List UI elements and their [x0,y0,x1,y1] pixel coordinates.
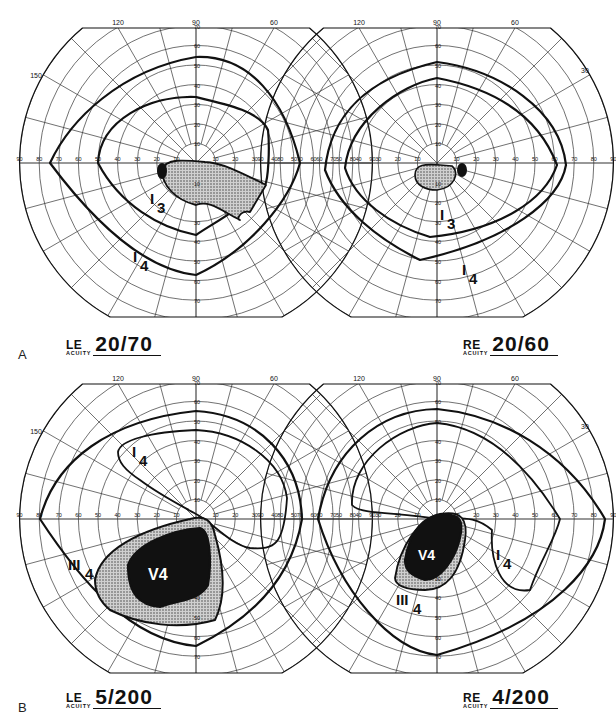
svg-text:120: 120 [112,375,124,382]
svg-text:20: 20 [194,122,200,128]
panel-a-re-acuity: REACUITY 20/60 [463,333,558,356]
svg-text:80: 80 [277,512,283,518]
svg-text:20: 20 [154,512,160,518]
svg-text:50: 50 [95,512,101,518]
svg-text:I: I [440,206,444,223]
svg-text:40: 40 [435,239,441,245]
acuity-value: 20/70 [93,333,161,356]
svg-text:70: 70 [435,380,441,386]
svg-text:4: 4 [469,270,478,287]
svg-text:3: 3 [447,215,455,232]
svg-text:90: 90 [610,512,616,518]
svg-text:20: 20 [232,512,238,518]
svg-text:10: 10 [414,512,420,518]
panel-b-le-acuity: LEACUITY 5/200 [66,686,161,709]
svg-text:60: 60 [75,512,81,518]
svg-text:10: 10 [435,497,441,503]
svg-text:30: 30 [194,458,200,464]
svg-text:30: 30 [435,458,441,464]
acuity-value: 4/200 [490,686,558,709]
svg-text:60: 60 [435,635,441,641]
svg-text:30: 30 [375,156,381,162]
svg-text:V4: V4 [418,547,435,563]
svg-text:40: 40 [194,239,200,245]
svg-text:30: 30 [134,156,140,162]
svg-text:40: 40 [512,156,518,162]
svg-text:4: 4 [413,600,422,617]
svg-text:20: 20 [473,512,479,518]
svg-text:40: 40 [115,512,121,518]
svg-text:40: 40 [194,83,200,89]
svg-text:60: 60 [270,19,278,26]
svg-text:40: 40 [194,595,200,601]
svg-text:40: 40 [435,439,441,445]
svg-text:80: 80 [36,156,42,162]
svg-text:30: 30 [493,512,499,518]
svg-text:30: 30 [581,67,589,74]
svg-text:20: 20 [435,556,441,562]
svg-text:10: 10 [435,181,441,187]
svg-text:60: 60 [435,399,441,405]
acuity-label: ACUITY [463,351,488,357]
svg-text:10: 10 [454,156,460,162]
acuity-label: ACUITY [463,704,488,710]
svg-text:20: 20 [194,478,200,484]
panel-b-re-acuity: REACUITY 4/200 [463,686,558,709]
svg-text:60: 60 [316,156,322,162]
svg-text:90: 90 [610,156,616,162]
svg-text:10: 10 [213,156,219,162]
svg-text:10: 10 [194,141,200,147]
svg-text:4: 4 [140,257,149,274]
svg-text:III: III [396,591,409,608]
svg-text:20: 20 [395,512,401,518]
svg-text:20: 20 [435,478,441,484]
svg-text:120: 120 [112,19,124,26]
svg-text:III: III [68,556,81,573]
svg-text:70: 70 [194,298,200,304]
svg-text:150: 150 [30,72,42,79]
acuity-value: 5/200 [93,686,161,709]
svg-text:50: 50 [435,419,441,425]
acuity-label: ACUITY [66,351,91,357]
svg-text:80: 80 [277,156,283,162]
svg-text:80: 80 [591,512,597,518]
acuity-label: ACUITY [66,704,91,710]
panel-a-letter: A [18,347,27,362]
svg-text:50: 50 [532,512,538,518]
svg-text:30: 30 [194,102,200,108]
svg-text:60: 60 [511,375,519,382]
svg-text:70: 70 [56,156,62,162]
svg-text:30: 30 [134,512,140,518]
svg-text:90: 90 [258,156,264,162]
svg-text:10: 10 [435,141,441,147]
svg-text:80: 80 [591,156,597,162]
svg-text:60: 60 [552,512,558,518]
svg-text:70: 70 [435,298,441,304]
panel-a-le-acuity: LEACUITY 20/70 [66,333,161,356]
svg-text:20: 20 [232,156,238,162]
svg-text:10: 10 [194,537,200,543]
svg-text:90: 90 [17,512,23,518]
svg-text:150: 150 [30,428,42,435]
svg-text:60: 60 [435,279,441,285]
svg-text:10: 10 [454,512,460,518]
svg-text:3: 3 [157,199,165,216]
svg-text:70: 70 [297,156,303,162]
svg-text:50: 50 [194,63,200,69]
svg-text:I: I [496,546,500,563]
svg-text:4: 4 [503,555,512,572]
svg-text:I: I [150,190,154,207]
eye-code: LE [66,339,91,351]
svg-text:I: I [133,248,137,265]
svg-text:20: 20 [395,156,401,162]
svg-text:10: 10 [213,512,219,518]
svg-text:60: 60 [194,399,200,405]
svg-text:50: 50 [435,259,441,265]
svg-text:10: 10 [173,156,179,162]
svg-text:I: I [132,443,136,460]
svg-text:70: 70 [435,24,441,30]
svg-text:50: 50 [435,63,441,69]
svg-text:70: 70 [194,24,200,30]
svg-text:50: 50 [336,156,342,162]
svg-text:60: 60 [511,19,519,26]
